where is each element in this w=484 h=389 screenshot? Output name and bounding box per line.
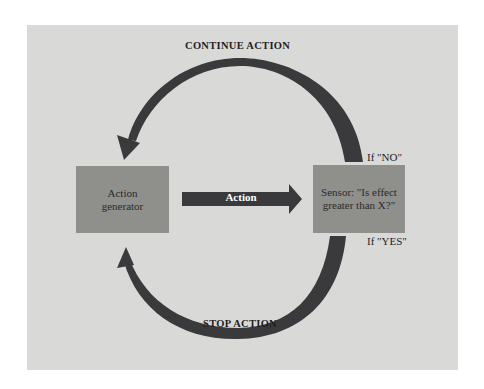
action-generator-line2: generator xyxy=(102,200,144,213)
continue-action-label: CONTINUE ACTION xyxy=(185,40,290,51)
action-generator-line1: Action xyxy=(102,187,144,200)
sensor-box: Sensor: "Is effect greater than X?" xyxy=(313,165,405,233)
action-generator-box: Action generator xyxy=(76,166,169,233)
action-arrow-label: Action xyxy=(196,191,286,203)
stop-arrowhead-icon xyxy=(117,247,134,268)
continue-action-arc xyxy=(128,58,363,162)
if-no-label: If "NO" xyxy=(367,151,402,163)
sensor-line1: Sensor: "Is effect xyxy=(321,186,397,199)
sensor-line2: greater than X?" xyxy=(321,199,397,212)
stop-action-label: STOP ACTION xyxy=(203,318,277,329)
if-yes-label: If "YES" xyxy=(367,235,407,247)
